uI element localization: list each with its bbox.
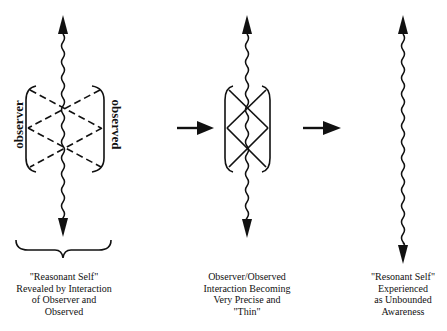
arrow-right-icon <box>197 121 214 135</box>
transition-arrow-1 <box>177 121 214 135</box>
wavy-vertical-line <box>62 34 65 221</box>
panel-1 <box>16 15 111 258</box>
caption-line: of Observer and <box>8 294 120 306</box>
arrowhead-down-icon <box>58 218 68 237</box>
solid-interaction-lines <box>227 90 268 167</box>
caption-line: "Resonant Self" <box>353 271 447 283</box>
arrowhead-up-icon <box>398 15 408 34</box>
observed-label: observed <box>110 100 123 150</box>
arrow-right-icon <box>323 121 341 135</box>
caption-line: Observer/Observed <box>190 271 304 283</box>
arrowhead-down-icon <box>398 245 408 264</box>
caption-line: as Unbounded <box>353 294 447 306</box>
arrowhead-up-icon <box>242 15 252 34</box>
observer-label: observer <box>12 100 25 150</box>
caption-line: "Thin" <box>190 306 304 318</box>
caption-line: Interaction Becoming <box>190 283 304 295</box>
wavy-vertical-line <box>246 34 249 221</box>
caption-line: Observed <box>8 306 120 318</box>
caption-line: Awareness <box>353 306 447 318</box>
caption-line: Very Precise and <box>190 294 304 306</box>
caption-panel-2: Observer/Observed Interaction Becoming V… <box>190 271 304 317</box>
caption-panel-1: "Reasonant Self" Revealed by Interaction… <box>8 271 120 317</box>
panel-3 <box>398 15 408 264</box>
curly-brace <box>16 240 111 258</box>
caption-panel-3: "Resonant Self" Experienced as Unbounded… <box>353 271 447 317</box>
caption-line: Experienced <box>353 283 447 295</box>
arrowhead-up-icon <box>58 15 68 34</box>
caption-line: Revealed by Interaction <box>8 283 120 295</box>
caption-line: "Reasonant Self" <box>8 271 120 283</box>
arrowhead-down-icon <box>242 219 252 238</box>
panel-2 <box>225 15 270 238</box>
wavy-vertical-line <box>402 34 405 244</box>
right-bracket <box>92 86 104 172</box>
transition-arrow-2 <box>303 121 341 135</box>
